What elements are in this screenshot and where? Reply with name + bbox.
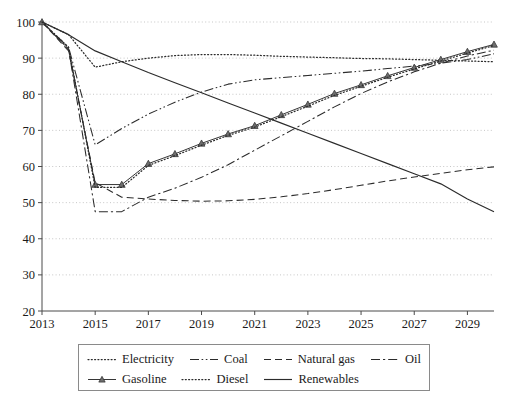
series-electricity (42, 22, 494, 67)
y-tick-label: 50 (23, 196, 36, 210)
plot-area: 2030405060708090100 20132015201720192021… (0, 0, 509, 399)
y-tick-label: 70 (23, 124, 36, 138)
legend-item-renewables[interactable]: Renewables (263, 373, 358, 386)
y-tick-label: 30 (23, 268, 36, 282)
series-gasoline (39, 19, 498, 188)
x-tick-label: 2027 (402, 317, 427, 331)
x-tick-label: 2029 (455, 317, 480, 331)
series-line (42, 22, 494, 185)
legend-item-electricity[interactable]: Electricity (87, 353, 174, 366)
series-natural-gas (42, 22, 494, 201)
legend-item-label: Renewables (298, 373, 358, 386)
legend-item-coal[interactable]: Coal (189, 353, 248, 366)
x-tick-label: 2021 (242, 317, 267, 331)
legend-swatch (263, 354, 293, 365)
legend-swatch (87, 354, 117, 365)
legend-item-label: Diesel (216, 373, 248, 386)
x-axis-tick-labels: 201320152017201920212023202520272029 (30, 317, 480, 331)
series-line (42, 22, 494, 212)
series-line (42, 22, 494, 187)
legend-swatch (189, 354, 219, 365)
series-line (42, 22, 494, 201)
x-tick-label: 2015 (83, 317, 108, 331)
legend-item-oil[interactable]: Oil (370, 353, 421, 366)
series-line (42, 22, 494, 212)
legend-item-gasoline[interactable]: Gasoline (87, 373, 166, 386)
series-oil (42, 22, 494, 212)
x-tick-label: 2025 (349, 317, 374, 331)
legend-swatch (370, 354, 400, 365)
series-marker (278, 111, 285, 117)
y-tick-label: 90 (23, 52, 36, 66)
y-tick-label: 100 (16, 16, 35, 30)
x-tick-label: 2013 (30, 317, 55, 331)
chart-legend: ElectricityCoalNatural gasOil GasolineDi… (78, 344, 430, 391)
series-coal (42, 22, 494, 145)
legend-item-label: Natural gas (298, 353, 355, 366)
data-series-group (39, 19, 498, 212)
series-line (42, 22, 494, 67)
y-tick-label: 40 (23, 232, 36, 246)
x-tick-label: 2019 (189, 317, 214, 331)
legend-item-label: Gasoline (122, 373, 166, 386)
legend-item-label: Oil (405, 353, 421, 366)
y-axis-tick-labels: 2030405060708090100 (16, 16, 35, 319)
x-tick-label: 2023 (295, 317, 320, 331)
legend-row: GasolineDieselRenewables (87, 369, 423, 389)
legend-swatch (87, 374, 117, 385)
series-line (42, 22, 494, 145)
legend-item-natural-gas[interactable]: Natural gas (263, 353, 355, 366)
series-diesel (42, 22, 494, 187)
x-tick-label: 2017 (136, 317, 161, 331)
legend-swatch (181, 374, 211, 385)
legend-row: ElectricityCoalNatural gasOil (87, 349, 423, 369)
legend-item-diesel[interactable]: Diesel (181, 373, 248, 386)
y-tick-label: 60 (23, 160, 36, 174)
line-chart: 2030405060708090100 20132015201720192021… (0, 0, 509, 399)
legend-item-label: Electricity (122, 353, 174, 366)
y-tick-label: 80 (23, 88, 36, 102)
series-renewables (42, 22, 494, 212)
legend-swatch (263, 374, 293, 385)
legend-item-label: Coal (224, 353, 248, 366)
